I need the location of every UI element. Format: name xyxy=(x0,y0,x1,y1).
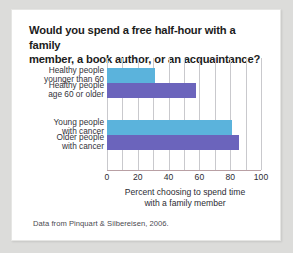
category-label-line: with cancer xyxy=(26,142,104,152)
category-label: Older peoplewith cancer xyxy=(26,133,104,152)
plot-area xyxy=(107,58,261,170)
category-label-line: age 60 or older xyxy=(26,90,104,100)
bar xyxy=(107,120,232,135)
x-tick-label: 80 xyxy=(225,172,235,182)
bar xyxy=(107,83,196,98)
x-axis-title: Percent choosing to spend time with a fa… xyxy=(95,187,275,208)
category-axis-labels: Healthy peopleyounger than 60Healthy peo… xyxy=(26,58,104,170)
bar xyxy=(107,68,155,83)
x-axis-line xyxy=(107,170,261,171)
x-tick-label: 40 xyxy=(164,172,174,182)
chart-title-line-1: Would you spend a free half-hour with a … xyxy=(29,23,269,52)
gridline-100 xyxy=(261,58,262,170)
x-tick-label: 100 xyxy=(254,172,268,182)
category-label: Healthy peopleage 60 or older xyxy=(26,81,104,100)
chart-card: Would you spend a free half-hour with a … xyxy=(11,9,281,241)
x-tick-label: 60 xyxy=(195,172,205,182)
bar xyxy=(107,135,239,150)
source-note: Data from Pinquart & Silbereisen, 2006. xyxy=(33,219,169,228)
bar-series xyxy=(107,58,261,170)
x-tick-label: 0 xyxy=(105,172,110,182)
x-axis-tick-labels: 020406080100 xyxy=(107,172,261,184)
x-tick-label: 20 xyxy=(133,172,143,182)
x-axis-title-line-1: Percent choosing to spend time xyxy=(95,187,275,198)
x-axis-title-line-2: with a family member xyxy=(95,198,275,209)
